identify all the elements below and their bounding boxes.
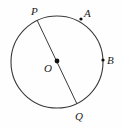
figure-canvas: [0, 0, 122, 128]
center-point-dot: [55, 59, 60, 64]
point-label-q: Q: [75, 111, 83, 122]
point-b-dot: [101, 58, 104, 61]
center-label-o: O: [44, 63, 52, 74]
point-a-dot: [79, 17, 82, 20]
point-label-a: A: [84, 8, 91, 19]
point-label-b: B: [107, 55, 114, 66]
point-label-p: P: [31, 6, 38, 17]
circle-geometry-figure: P A B O Q: [0, 0, 122, 128]
